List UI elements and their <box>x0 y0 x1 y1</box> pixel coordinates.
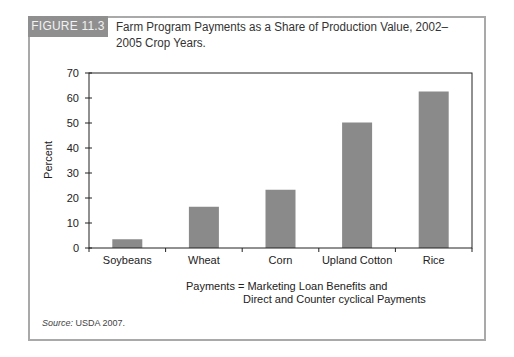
y-axis-label: Percent <box>42 141 54 179</box>
y-tick-label: 10 <box>67 217 79 229</box>
bar-corn <box>266 190 296 248</box>
source-text: USDA 2007. <box>73 318 125 328</box>
y-tick-label: 60 <box>67 92 79 104</box>
source-label: Source: <box>42 318 73 328</box>
bar-wheat <box>189 207 219 248</box>
y-tick-label: 30 <box>67 167 79 179</box>
y-axis: 010203040506070 <box>67 67 92 254</box>
y-tick-label: 20 <box>67 192 79 204</box>
bar-soybeans <box>112 239 142 248</box>
x-axis: SoybeansWheatCornUpland CottonRice <box>89 248 472 266</box>
x-tick-label: Soybeans <box>103 254 152 266</box>
bar-rice <box>419 92 449 249</box>
caption-line-1: Payments = Marketing Loan Benefits and <box>186 280 387 292</box>
x-tick-label: Corn <box>269 254 293 266</box>
y-tick-label: 50 <box>67 117 79 129</box>
y-tick-label: 40 <box>67 142 79 154</box>
bar-upland-cotton <box>342 123 372 249</box>
caption-line-2: Direct and Counter cyclical Payments <box>243 293 426 305</box>
y-tick-label: 70 <box>67 67 79 79</box>
x-tick-label: Upland Cotton <box>322 254 392 266</box>
y-tick-label: 0 <box>73 242 79 254</box>
bars <box>112 92 448 249</box>
source-note: Source: USDA 2007. <box>42 318 125 328</box>
x-tick-label: Rice <box>423 254 445 266</box>
x-tick-label: Wheat <box>188 254 220 266</box>
